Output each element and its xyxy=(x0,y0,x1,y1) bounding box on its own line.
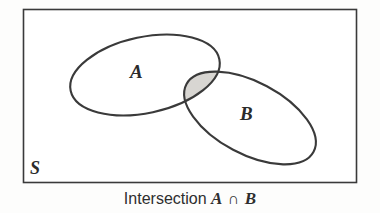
venn-diagram-figure: A B S Intersection A ∩ B xyxy=(0,0,380,213)
set-a-label: A xyxy=(130,62,143,81)
caption-left-operand: A xyxy=(211,189,222,208)
venn-diagram-canvas xyxy=(0,0,380,213)
figure-caption: Intersection A ∩ B xyxy=(0,189,380,209)
universal-set-label: S xyxy=(30,159,40,177)
intersection-operator-icon: ∩ xyxy=(227,190,241,207)
caption-prefix: Intersection xyxy=(124,190,207,207)
set-b-label: B xyxy=(240,104,253,123)
caption-right-operand: B xyxy=(245,189,256,208)
